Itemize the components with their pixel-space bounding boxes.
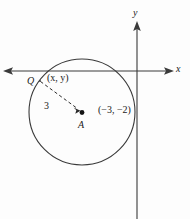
radius-arrowhead-icon	[74, 108, 81, 114]
point-q-coordinate-label: (x, y)	[47, 73, 69, 83]
coordinate-geometry-figure: x y Q (x, y) 3 A (−3, −2)	[0, 0, 190, 219]
x-axis	[3, 67, 174, 75]
radius-length-label: 3	[44, 101, 49, 111]
point-q-label: Q	[27, 76, 34, 86]
x-axis-label: x	[176, 64, 180, 74]
circle-center-coordinate-label: (−3, −2)	[98, 105, 131, 115]
point-q-marker-icon	[39, 80, 41, 82]
point-a-dot-icon	[80, 110, 85, 115]
y-axis-label: y	[133, 8, 137, 18]
point-a-label: A	[78, 120, 84, 130]
figure-canvas	[0, 0, 190, 219]
